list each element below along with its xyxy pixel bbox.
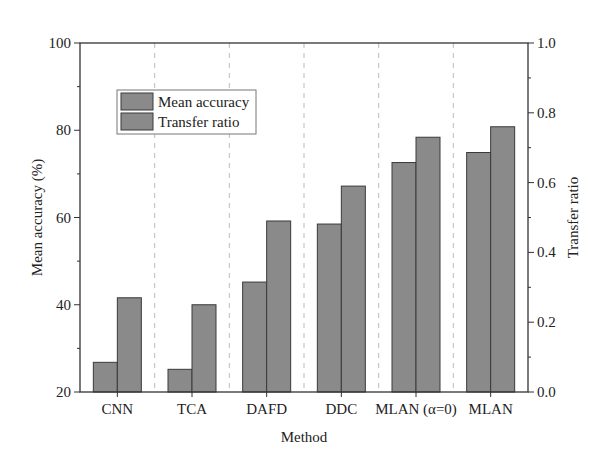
bar-mean-accuracy [93, 362, 117, 392]
bar-transfer-ratio [267, 221, 291, 392]
y-tick-label: 60 [56, 210, 71, 226]
bar-mean-accuracy [168, 369, 192, 392]
y2-tick-label: 0.8 [537, 105, 556, 121]
x-axis-label: Method [281, 429, 328, 445]
y-tick-label: 100 [49, 35, 72, 51]
y-tick-label: 40 [56, 297, 71, 313]
chart-container: CNNTCADAFDDDCMLAN (α=0)MLAN204060801000.… [0, 0, 607, 457]
y2-tick-label: 0.4 [537, 244, 556, 260]
bar-transfer-ratio [192, 305, 216, 392]
bar-transfer-ratio [117, 298, 141, 392]
legend-label: Mean accuracy [158, 94, 250, 110]
bar-transfer-ratio [341, 186, 365, 392]
y-tick-label: 80 [56, 122, 71, 138]
x-tick-label: MLAN [469, 401, 513, 417]
y2-tick-label: 0.6 [537, 175, 556, 191]
x-tick-label: DAFD [246, 401, 287, 417]
x-tick-label: MLAN (α=0) [375, 401, 457, 418]
y2-tick-label: 0.0 [537, 384, 556, 400]
bar-mean-accuracy [317, 224, 341, 392]
x-tick-label: DDC [325, 401, 357, 417]
y2-tick-label: 1.0 [537, 35, 556, 51]
bar-mean-accuracy [467, 152, 491, 392]
y2-axis-label: Transfer ratio [565, 177, 581, 259]
x-tick-label: TCA [177, 401, 207, 417]
bar-chart: CNNTCADAFDDDCMLAN (α=0)MLAN204060801000.… [0, 0, 607, 457]
y-tick-label: 20 [56, 384, 71, 400]
bar-mean-accuracy [243, 282, 267, 392]
bar-transfer-ratio [416, 137, 440, 392]
y2-tick-label: 0.2 [537, 314, 556, 330]
bar-transfer-ratio [491, 127, 515, 392]
legend-label: Transfer ratio [158, 114, 240, 130]
legend-swatch [121, 93, 153, 110]
bar-mean-accuracy [392, 163, 416, 392]
y-axis-label: Mean accuracy (%) [29, 159, 46, 276]
x-tick-label: CNN [101, 401, 133, 417]
legend-swatch [121, 113, 153, 130]
